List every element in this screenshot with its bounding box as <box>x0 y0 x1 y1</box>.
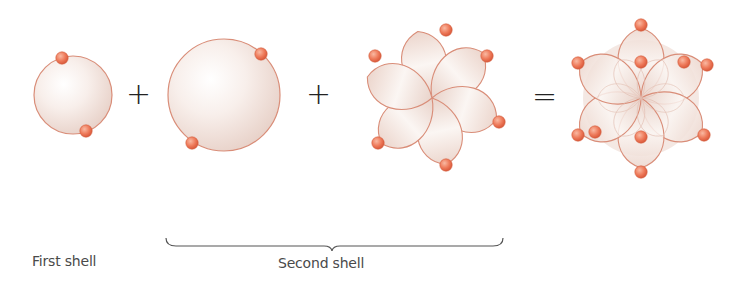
electron-dot <box>372 137 384 149</box>
electron-dot <box>698 129 710 141</box>
electron-dot <box>572 57 584 69</box>
electron-dot <box>493 116 505 128</box>
electron-dot <box>186 137 198 149</box>
equals-sign: = <box>532 82 557 112</box>
second-shell-label: Second shell <box>278 255 364 271</box>
electron-dot <box>635 166 647 178</box>
orbital-sphere <box>34 56 112 134</box>
orbital-diagram-canvas <box>0 0 729 298</box>
electron-dot <box>635 131 647 143</box>
electron-dot <box>369 50 381 62</box>
electron-dot <box>440 24 452 36</box>
electron-dot <box>80 125 92 137</box>
electron-dot <box>701 59 713 71</box>
second-shell-brace <box>166 238 503 251</box>
electron-dot <box>481 50 493 62</box>
plus-sign: + <box>126 79 151 109</box>
electron-dot <box>255 48 267 60</box>
electron-dot <box>56 52 68 64</box>
electron-dot <box>635 56 647 68</box>
electron-dot <box>589 126 601 138</box>
electron-dot <box>572 129 584 141</box>
electron-dot <box>678 56 690 68</box>
orbital-diagram: + + = First shell Second shell <box>0 0 729 298</box>
electron-dot <box>635 19 647 31</box>
plus-sign: + <box>306 79 331 109</box>
first-shell-label: First shell <box>32 253 96 269</box>
electron-dot <box>440 159 452 171</box>
combined-orbitals <box>569 28 713 168</box>
first-shell-orbital <box>34 56 112 134</box>
